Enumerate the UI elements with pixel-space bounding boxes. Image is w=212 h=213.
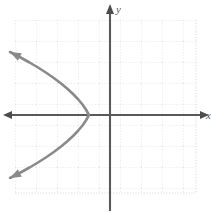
y-axis-top-arrowhead (106, 4, 114, 14)
coordinate-plane (0, 0, 212, 213)
x-axis-label: x (206, 110, 211, 121)
grid-lines (15, 20, 196, 193)
y-axis-label: y (116, 4, 121, 15)
x-axis-left-arrowhead (3, 111, 12, 119)
graph-figure: y x (0, 0, 212, 213)
